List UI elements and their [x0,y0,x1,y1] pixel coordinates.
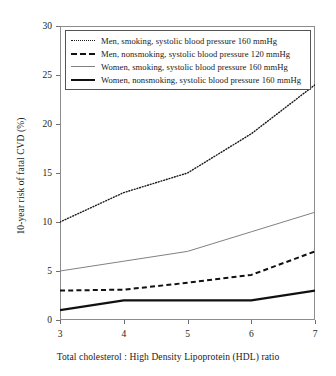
thin-solid-line-sample [70,61,96,73]
x-tick-label: 5 [176,329,200,339]
x-tick-mark [124,320,125,324]
y-tick-label: 0 [30,315,52,325]
y-tick-label: 5 [30,266,52,276]
chart-legend: Men, smoking, systolic blood pressure 16… [65,30,311,90]
x-tick-label: 4 [112,329,136,339]
series-line-3 [60,291,315,311]
x-tick-mark [60,320,61,324]
y-axis-title: 10-year risk of fatal CVD (%) [16,86,26,266]
legend-item: Women, smoking, systolic blood pressure … [70,60,306,73]
dashed-line-sample [70,48,96,60]
x-axis-title: Total cholesterol : High Density Lipopro… [0,352,336,362]
x-tick-mark [251,320,252,324]
legend-item-label: Men, nonsmoking, systolic blood pressure… [101,48,290,60]
y-tick-label: 15 [30,168,52,178]
legend-item: Women, nonsmoking, systolic blood pressu… [70,73,306,86]
series-line-2 [60,212,315,271]
legend-item-label: Women, smoking, systolic blood pressure … [101,61,288,73]
y-tick-label: 20 [30,119,52,129]
y-tick-label: 30 [30,21,52,31]
x-tick-label: 3 [48,329,72,339]
dotted-line-sample [70,35,96,47]
legend-item: Men, smoking, systolic blood pressure 16… [70,34,306,47]
legend-item-label: Men, smoking, systolic blood pressure 16… [101,35,277,47]
x-tick-mark [315,320,316,324]
cvd-risk-line-chart: 10-year risk of fatal CVD (%) Total chol… [0,0,336,376]
x-tick-label: 7 [303,329,327,339]
legend-item: Men, nonsmoking, systolic blood pressure… [70,47,306,60]
legend-item-label: Women, nonsmoking, systolic blood pressu… [101,74,301,86]
x-tick-label: 6 [239,329,263,339]
thick-solid-line-sample [70,74,96,86]
series-line-0 [60,85,315,222]
x-tick-mark [188,320,189,324]
series-line-1 [60,251,315,290]
y-tick-label: 25 [30,70,52,80]
y-tick-label: 10 [30,217,52,227]
